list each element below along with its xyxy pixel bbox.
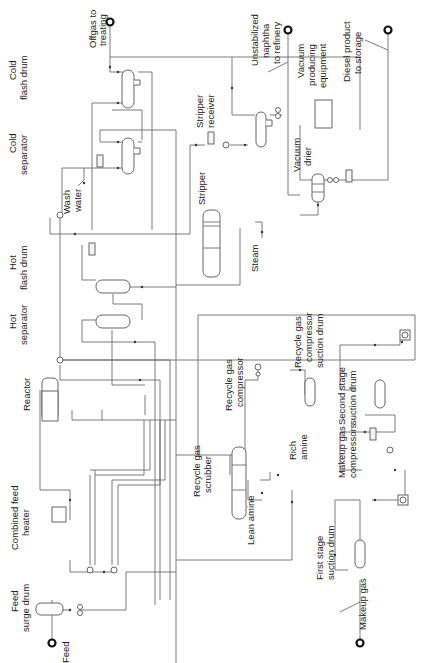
label-cold-flash-drum: Coldflash drum [7, 56, 29, 100]
label-reactor: Reactor [21, 378, 32, 411]
combined-feed-heater [52, 507, 66, 522]
label-feed: Feed [60, 641, 71, 663]
flow-arrows [69, 66, 403, 611]
cold-separator [122, 138, 140, 174]
label-second-stage-suction-drum: Second stagesuction drum [336, 367, 358, 425]
label-feed-surge-drum: Feedsurge drum [9, 584, 31, 632]
label-combined-feed-heater: Combined feedheater [9, 486, 31, 550]
label-hot-flash-drum: Hotflash drum [7, 246, 29, 290]
label-vacuum-drier: Vacuumdrier [291, 138, 313, 172]
label-recycle-gas-compressor: Recycle gascompressor [223, 357, 245, 411]
feed-effluent-exchanger-1 [87, 567, 93, 573]
vacuum-drier [312, 174, 324, 202]
label-wash-water: Washwater [61, 189, 83, 214]
label-first-stage-suction-drum: First stagesuction drum [314, 526, 336, 580]
cold-flash-drum [122, 70, 140, 108]
label-cold-separator: Coldseparator [7, 133, 29, 175]
stripper-reflux-pump [223, 142, 229, 148]
vacuum-producing-equipment [315, 100, 332, 128]
recycle-gas-scrubber [232, 447, 246, 519]
recycle-gas-compressor [255, 364, 261, 376]
label-stripper-receiver: Stripperreceiver [194, 94, 216, 128]
label-recycle-gas-compressor-suction-drum: Recycle gascompressorsuction drum [292, 312, 325, 368]
label-rich-amine: Richamine [287, 434, 309, 460]
second-stage-suction-drum [375, 380, 385, 408]
label-unstabilized-naphtha: Unstabilizednaphthato refinery [249, 14, 282, 66]
hot-flash-cooler [89, 243, 95, 255]
recycle-gas-compressor-suction-drum [305, 378, 315, 406]
stripper-receiver [256, 112, 272, 147]
label-hot-separator: Hotseparator [7, 305, 29, 345]
diesel-pump [328, 178, 339, 183]
reactor [42, 378, 58, 421]
label-recycle-gas-scrubber: Recycle gasscrubber [191, 445, 213, 497]
labels: Offgas totreating Coldflash drum Coldsep… [7, 10, 368, 663]
hot-flash-drum [96, 280, 130, 293]
feed-effluent-exchanger-2 [111, 567, 117, 573]
makeup-gas-cooler [370, 428, 376, 440]
makeup-gas-terminal-icon [357, 640, 364, 647]
label-makeup-gas: Makeup gas [357, 578, 368, 630]
label-lean-amine: Lean amine [245, 495, 256, 545]
stripper-overhead-cooler [208, 132, 214, 144]
hot-separator [96, 315, 130, 328]
first-stage-suction-drum [355, 540, 365, 568]
recycle-gas-mixer [57, 357, 63, 363]
label-offgas: Offgas totreating [87, 10, 108, 48]
naphtha-terminal-icon [285, 27, 292, 34]
stripper-column [203, 210, 220, 277]
label-diesel-product: Diesel productto storage [341, 21, 363, 82]
diesel-terminal-icon [385, 27, 392, 34]
air-cooler [97, 155, 103, 167]
label-steam: Steam [249, 244, 260, 272]
naphtha-pump [276, 108, 281, 119]
feed-surge-drum [36, 603, 63, 615]
makeup-gas-interstage-pump [387, 447, 393, 453]
terminals [49, 19, 392, 647]
diesel-cooler [346, 170, 352, 182]
process-flow-diagram: Offgas totreating Coldflash drum Coldsep… [0, 0, 432, 663]
label-makeup-gas-compressors: Makeup gascompressors [336, 423, 358, 478]
label-stripper: Stripper [196, 172, 207, 205]
label-vacuum-producing-equipment: Vacuumproducingequipment [295, 43, 328, 88]
feed-terminal-icon [49, 640, 56, 647]
